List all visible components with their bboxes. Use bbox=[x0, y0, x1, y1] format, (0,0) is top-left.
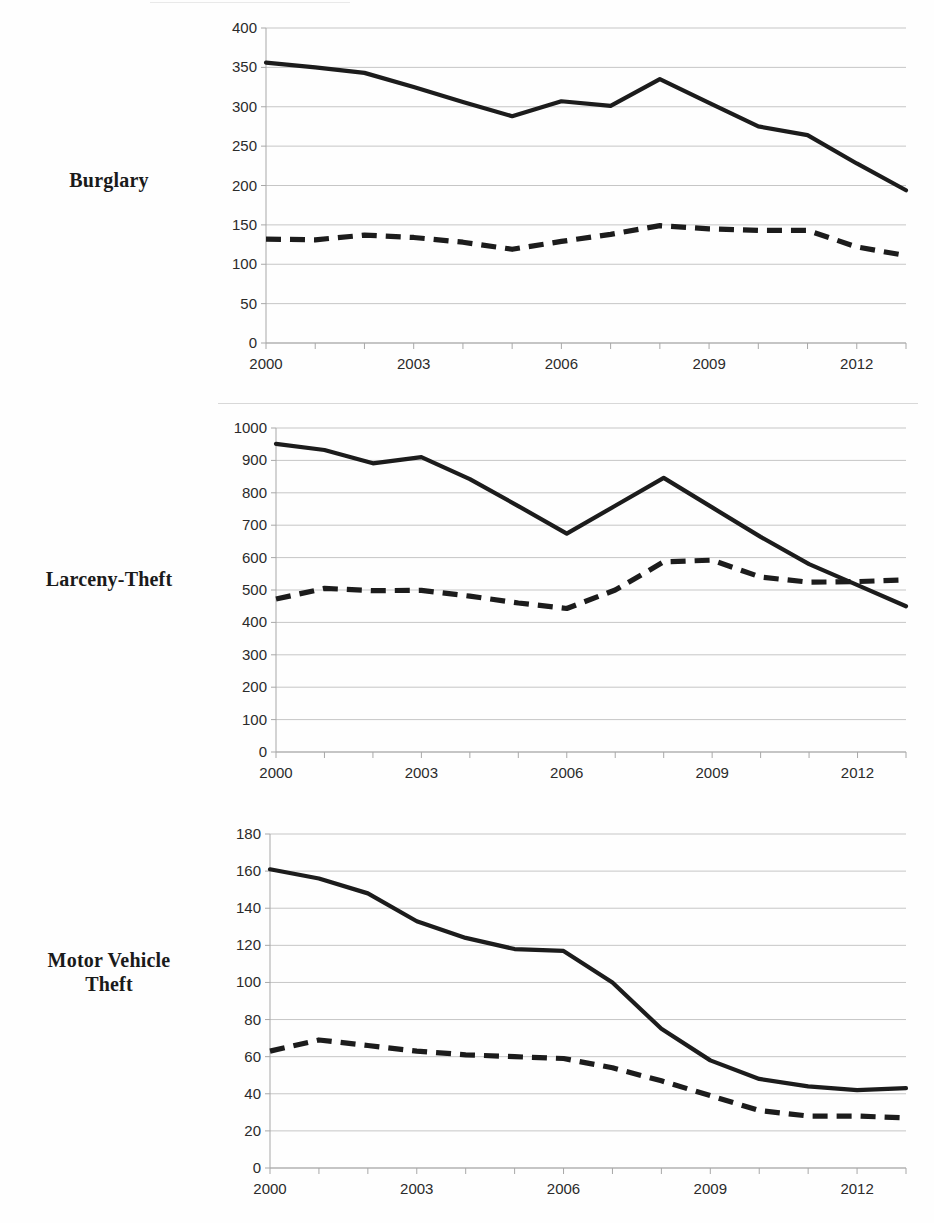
figure-page: Burglary 0501001502002503003504002000200… bbox=[0, 0, 934, 1223]
x-axis-tick-label: 2009 bbox=[695, 764, 728, 781]
series-line-dashed bbox=[270, 1040, 906, 1118]
y-axis-tick-label: 200 bbox=[242, 678, 267, 695]
x-axis-tick-label: 2006 bbox=[547, 1180, 580, 1197]
y-axis-tick-label: 160 bbox=[236, 862, 261, 879]
panel-label-line: Burglary bbox=[0, 168, 218, 192]
x-axis-tick-label: 2000 bbox=[259, 764, 292, 781]
y-axis-tick-label: 300 bbox=[232, 98, 257, 115]
panel-larceny-theft: Larceny-Theft 01002003004005006007008009… bbox=[0, 404, 934, 808]
chart-svg: 0100200300400500600700800900100020002003… bbox=[218, 412, 918, 802]
series-line-solid bbox=[266, 63, 906, 191]
y-axis-tick-label: 800 bbox=[242, 484, 267, 501]
x-axis-tick-label: 2003 bbox=[405, 764, 438, 781]
y-axis-tick-label: 250 bbox=[232, 137, 257, 154]
y-axis-tick-label: 350 bbox=[232, 58, 257, 75]
y-axis-tick-label: 50 bbox=[240, 295, 257, 312]
panel-burglary: Burglary 0501001502002503003504002000200… bbox=[0, 0, 934, 403]
y-axis-tick-label: 600 bbox=[242, 549, 267, 566]
y-axis-tick-label: 400 bbox=[242, 613, 267, 630]
series-line-dashed bbox=[266, 226, 906, 256]
chart-svg: 0501001502002503003504002000200320062009… bbox=[218, 10, 918, 395]
panel-label-line: Larceny-Theft bbox=[0, 567, 218, 591]
y-axis-tick-label: 0 bbox=[259, 743, 267, 760]
y-axis-tick-label: 100 bbox=[236, 973, 261, 990]
y-axis-tick-label: 300 bbox=[242, 646, 267, 663]
y-axis-tick-label: 80 bbox=[244, 1011, 261, 1028]
y-axis-tick-label: 0 bbox=[253, 1159, 261, 1176]
x-axis-tick-label: 2003 bbox=[400, 1180, 433, 1197]
panel-label-larceny-theft: Larceny-Theft bbox=[0, 567, 218, 591]
x-axis-tick-label: 2003 bbox=[397, 355, 430, 372]
panel-label-burglary: Burglary bbox=[0, 168, 218, 192]
chart-burglary: 0501001502002503003504002000200320062009… bbox=[218, 10, 918, 395]
x-axis-tick-label: 2009 bbox=[692, 355, 725, 372]
x-axis-tick-label: 2006 bbox=[550, 764, 583, 781]
x-axis-tick-label: 2012 bbox=[840, 355, 873, 372]
y-axis-tick-label: 100 bbox=[232, 255, 257, 272]
chart-motor-vehicle-theft: 0204060801001201401601802000200320062009… bbox=[218, 818, 918, 1218]
y-axis-tick-label: 500 bbox=[242, 581, 267, 598]
x-axis-tick-label: 2012 bbox=[840, 1180, 873, 1197]
y-axis-tick-label: 150 bbox=[232, 216, 257, 233]
y-axis-tick-label: 400 bbox=[232, 19, 257, 36]
panel-label-line: Motor Vehicle bbox=[0, 948, 218, 972]
x-axis-tick-label: 2006 bbox=[545, 355, 578, 372]
y-axis-tick-label: 180 bbox=[236, 825, 261, 842]
panel-label-motor-vehicle-theft: Motor Vehicle Theft bbox=[0, 948, 218, 997]
panel-label-line: Theft bbox=[0, 972, 218, 996]
y-axis-tick-label: 0 bbox=[249, 334, 257, 351]
y-axis-tick-label: 140 bbox=[236, 899, 261, 916]
y-axis-tick-label: 20 bbox=[244, 1122, 261, 1139]
y-axis-tick-label: 100 bbox=[242, 711, 267, 728]
chart-svg: 0204060801001201401601802000200320062009… bbox=[218, 818, 918, 1218]
y-axis-tick-label: 40 bbox=[244, 1085, 261, 1102]
y-axis-tick-label: 700 bbox=[242, 516, 267, 533]
panel-motor-vehicle-theft: Motor Vehicle Theft 02040608010012014016… bbox=[0, 808, 934, 1223]
y-axis-tick-label: 200 bbox=[232, 177, 257, 194]
series-line-dashed bbox=[276, 560, 906, 608]
x-axis-tick-label: 2012 bbox=[841, 764, 874, 781]
chart-larceny-theft: 0100200300400500600700800900100020002003… bbox=[218, 412, 918, 802]
x-axis-tick-label: 2009 bbox=[694, 1180, 727, 1197]
y-axis-tick-label: 1000 bbox=[234, 419, 267, 436]
y-axis-tick-label: 60 bbox=[244, 1048, 261, 1065]
y-axis-tick-label: 900 bbox=[242, 451, 267, 468]
x-axis-tick-label: 2000 bbox=[249, 355, 282, 372]
y-axis-tick-label: 120 bbox=[236, 936, 261, 953]
x-axis-tick-label: 2000 bbox=[253, 1180, 286, 1197]
